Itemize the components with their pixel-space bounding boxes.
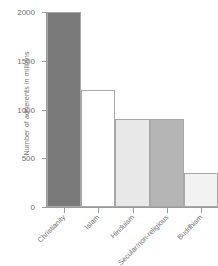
bar [184,173,218,207]
bar [47,12,81,207]
plot-area: 0500100015002000 ChristianityIslamHindui… [47,12,218,207]
x-axis-tick-label: Buddhism [175,213,204,242]
y-axis-tick-label: 1000 [17,105,35,114]
x-axis-tick-label: Christianity [36,213,68,245]
x-axis-tick-label: Islam [83,213,102,232]
y-axis-title: Number of adherents in millions [16,0,36,207]
x-axis-tick [64,208,65,213]
y-axis-tick-label: 1500 [17,56,35,65]
y-axis-tick-label: 0 [31,203,35,212]
x-axis-tick-label: Hinduism [108,213,136,241]
y-axis-tick-label: 2000 [17,8,35,17]
y-axis-tick-label: 500 [22,154,35,163]
bar [150,119,184,207]
x-axis-tick [201,208,202,213]
x-axis-tick [98,208,99,213]
bar-chart: Number of adherents in millions 05001000… [0,0,218,266]
x-axis-tick [133,208,134,213]
bar [81,90,115,207]
x-axis-tick [167,208,168,213]
bar [115,119,149,207]
y-axis-tick [42,207,47,208]
